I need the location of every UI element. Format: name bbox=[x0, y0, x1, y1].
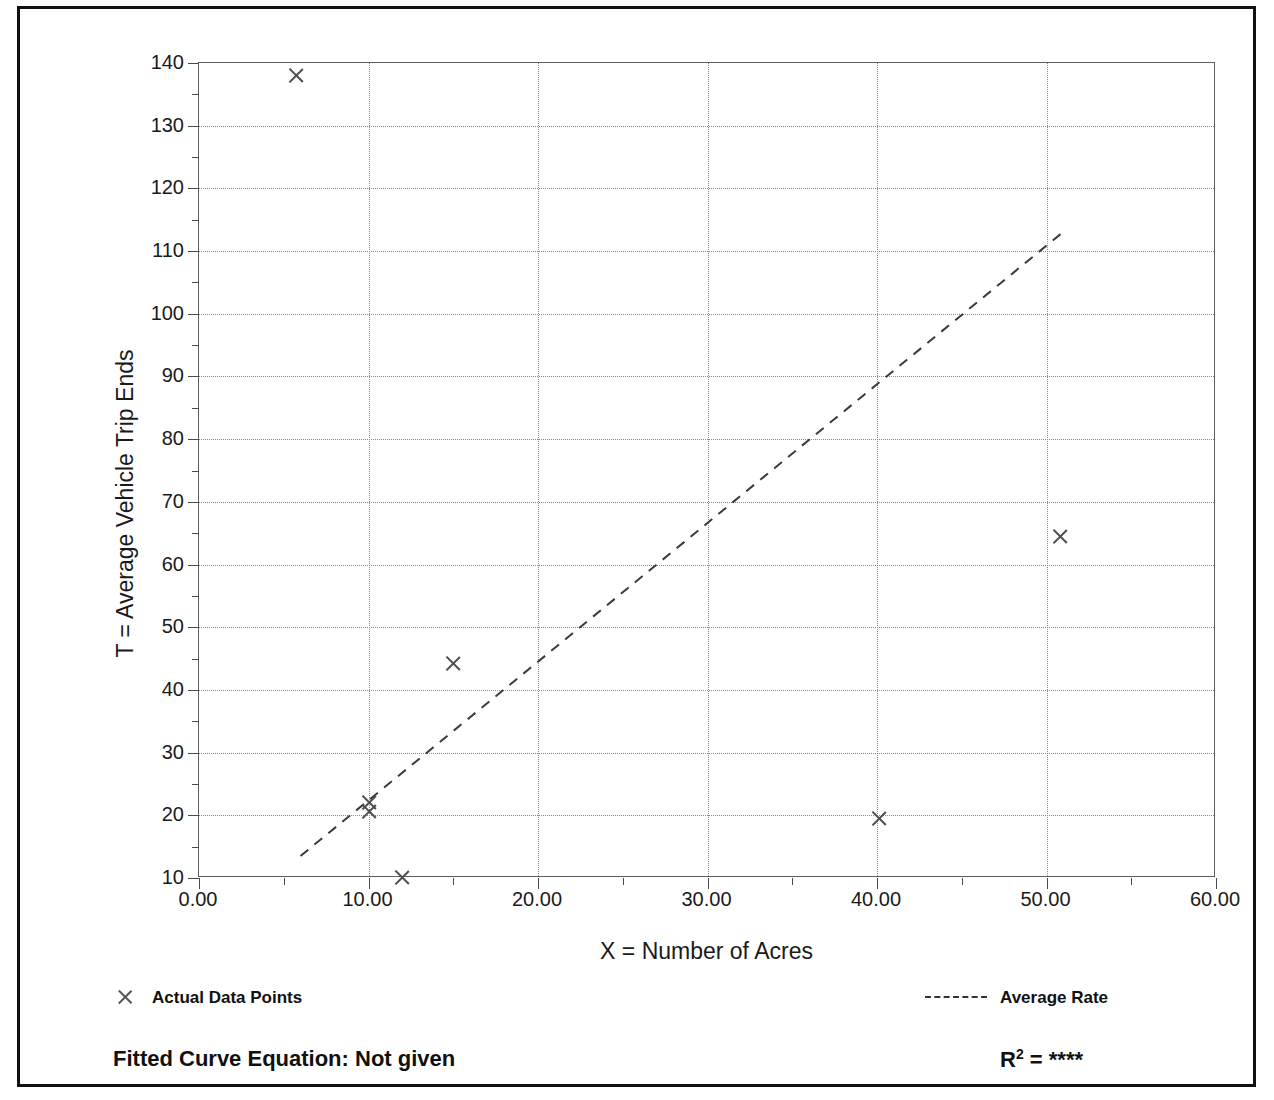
legend-dashed-line-icon bbox=[925, 996, 987, 998]
legend-x-marker-icon bbox=[116, 988, 134, 1006]
r-squared-equals: = bbox=[1024, 1047, 1049, 1072]
r-squared-exponent: 2 bbox=[1016, 1046, 1024, 1062]
legend-label-actual-data-points: Actual Data Points bbox=[152, 988, 302, 1008]
legend-label-average-rate: Average Rate bbox=[1000, 988, 1108, 1008]
r-squared-symbol: R bbox=[1000, 1047, 1016, 1072]
r-squared-value: **** bbox=[1049, 1047, 1083, 1072]
chart-page: T = Average Vehicle Trip Ends 1020304050… bbox=[0, 0, 1274, 1100]
chart-legend-footer: Actual Data Points Average Rate Fitted C… bbox=[0, 0, 1274, 1100]
r-squared-annotation: R2 = **** bbox=[1000, 1046, 1083, 1073]
fitted-curve-equation-text: Fitted Curve Equation: Not given bbox=[113, 1046, 455, 1072]
